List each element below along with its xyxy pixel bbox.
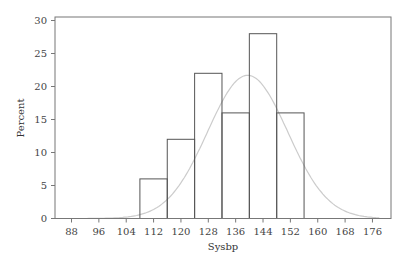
x-tick-label: 168 (336, 226, 355, 237)
histogram-bar (195, 73, 222, 218)
histogram-bar (167, 139, 194, 218)
histogram-bar (277, 113, 304, 219)
y-tick-label: 0 (41, 213, 47, 224)
x-tick-label: 136 (226, 226, 245, 237)
x-tick-label: 112 (144, 226, 163, 237)
x-tick-label: 128 (199, 226, 218, 237)
y-axis: 051015202530 (34, 15, 55, 224)
x-tick-label: 144 (253, 226, 272, 237)
x-tick-label: 152 (281, 226, 300, 237)
x-tick-label: 120 (171, 226, 190, 237)
x-tick-label: 96 (92, 226, 105, 237)
y-tick-label: 10 (34, 147, 47, 158)
x-axis: 8896104112120128136144152160168176 (65, 219, 382, 238)
histogram-bar (249, 34, 276, 219)
x-tick-label: 176 (363, 226, 382, 237)
y-tick-label: 5 (41, 180, 47, 191)
x-tick-label: 104 (117, 226, 136, 237)
histogram-bar (140, 179, 167, 219)
x-tick-label: 88 (65, 226, 78, 237)
y-tick-label: 20 (34, 81, 47, 92)
y-axis-label: Percent (15, 99, 26, 138)
histogram-bars (140, 34, 304, 219)
x-tick-label: 160 (308, 226, 327, 237)
y-tick-label: 30 (34, 15, 47, 26)
histogram-chart: 8896104112120128136144152160168176 05101… (0, 0, 411, 263)
plot-frame (55, 17, 391, 219)
y-tick-label: 25 (34, 48, 47, 59)
histogram-bar (222, 113, 249, 219)
y-tick-label: 15 (34, 114, 47, 125)
x-axis-label: Sysbp (208, 241, 238, 252)
